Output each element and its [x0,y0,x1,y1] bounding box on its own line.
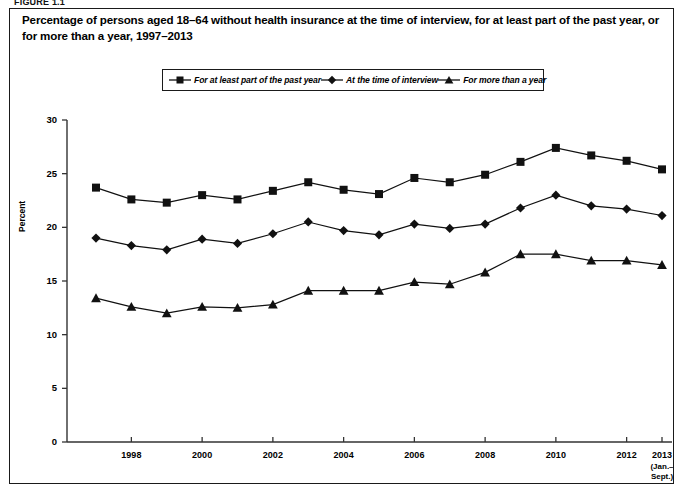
legend-label: For more than a year [463,75,546,85]
figure-label: FIGURE 1.1 [14,0,65,7]
diamond-marker-icon [321,75,343,85]
y-tick-label: 10 [35,329,57,340]
legend-label: For at least part of the past year [194,75,321,85]
triangle-marker-icon [438,75,460,85]
square-marker-icon [169,75,191,85]
y-axis-label: Percent [17,201,27,232]
y-tick-label: 25 [35,168,57,179]
x-tick-label: 2010 [534,450,578,460]
x-tick-label: 1998 [109,450,153,460]
y-tick-label: 15 [35,275,57,286]
x-tick-label: 2004 [322,450,366,460]
x-tick-label: 2002 [251,450,295,460]
y-tick-label: 0 [35,436,57,447]
x-tick-label: 2013 [640,450,682,460]
legend-label: At the time of interview [346,75,438,85]
x-tick-label: 2008 [463,450,507,460]
legend-item-at-interview[interactable]: At the time of interview [321,75,438,85]
x-tick-label: 2000 [180,450,224,460]
y-tick-label: 5 [35,382,57,393]
y-tick-label: 20 [35,221,57,232]
legend-item-more-than-year[interactable]: For more than a year [438,75,546,85]
y-tick-label: 30 [35,114,57,125]
x-tick-label: 2006 [392,450,436,460]
x-tick-sublabel: (Jan.–Sept.) [640,462,682,481]
chart-legend: For at least part of the past year At th… [162,69,544,91]
chart-title: Percentage of persons aged 18–64 without… [22,12,666,43]
legend-item-past-year[interactable]: For at least part of the past year [169,75,321,85]
